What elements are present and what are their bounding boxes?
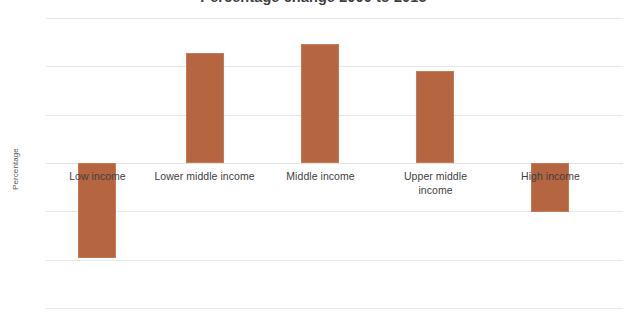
category-label-upper-middle-income-line1: Upper middle bbox=[404, 170, 467, 182]
plot-area: 15.0 10.0 5.0 0.0 -5.0 -10.0 -15.0 Low i… bbox=[46, 18, 623, 308]
y-axis-title: Percentage bbox=[1, 114, 10, 128]
gridline-15 bbox=[46, 18, 623, 19]
category-label-upper-middle-income-line2: income bbox=[418, 184, 452, 196]
gridline-minus10 bbox=[46, 260, 623, 261]
category-label-low-income: Low income bbox=[40, 170, 155, 184]
bar-middle-income[interactable] bbox=[301, 44, 339, 163]
bar-lower-middle-income[interactable] bbox=[186, 53, 224, 163]
gridline-minus15 bbox=[46, 308, 623, 309]
bar-chart: Percentage change 2000 to 2015 Percentag… bbox=[0, 0, 627, 316]
category-label-upper-middle-income: Upper middle income bbox=[378, 170, 493, 197]
bar-upper-middle-income[interactable] bbox=[416, 71, 454, 163]
y-axis-title-label: Percentage bbox=[11, 176, 20, 190]
category-label-lower-middle-income: Lower middle income bbox=[147, 170, 262, 184]
category-label-middle-income: Middle income bbox=[263, 170, 378, 184]
category-label-high-income: High income bbox=[493, 170, 608, 184]
chart-title: Percentage change 2000 to 2015 bbox=[0, 0, 627, 5]
